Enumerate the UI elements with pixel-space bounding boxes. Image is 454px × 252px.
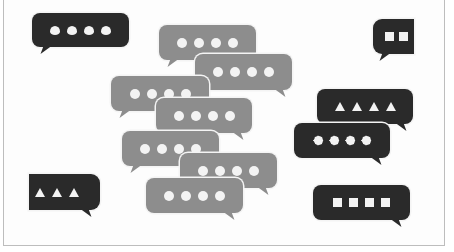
dot-icon <box>191 111 201 121</box>
speech-bubble-dark-triangles4 <box>317 89 413 124</box>
dot-icon <box>198 166 208 176</box>
triangle-icon <box>35 188 45 197</box>
triangle-icon <box>369 102 379 111</box>
dot-icon <box>208 111 218 121</box>
dot-icon <box>147 89 157 99</box>
star-dot-icon <box>362 136 371 145</box>
dot-icon <box>194 38 204 48</box>
dot-icon <box>230 67 240 77</box>
dot-icon <box>181 89 191 99</box>
triangle-icon <box>335 102 345 111</box>
square-icon <box>349 198 358 207</box>
dot-icon <box>232 166 242 176</box>
dot-icon <box>101 26 111 35</box>
triangle-icon <box>69 188 79 197</box>
speech-bubble-dark-triangles3 <box>29 174 100 210</box>
dot-icon <box>211 38 221 48</box>
dot-icon <box>157 144 167 154</box>
dot-icon <box>174 144 184 154</box>
dot-icon <box>164 191 174 201</box>
dot-icon <box>140 144 150 154</box>
square-icon <box>399 32 408 41</box>
dot-icon <box>249 166 259 176</box>
square-icon <box>365 198 374 207</box>
dot-icon <box>191 144 201 154</box>
dot-icon <box>164 89 174 99</box>
dot-icon <box>181 191 191 201</box>
speech-bubble-grey-g <box>146 178 243 213</box>
dot-icon <box>213 67 223 77</box>
speech-bubble-grey-b <box>195 54 292 90</box>
speech-bubble-dark-topleft <box>32 13 129 47</box>
triangle-icon <box>52 188 62 197</box>
dot-icon <box>50 26 60 35</box>
triangle-icon <box>352 102 362 111</box>
dot-icon <box>215 166 225 176</box>
dot-icon <box>198 191 208 201</box>
dot-icon <box>177 38 187 48</box>
speech-bubble-grey-d <box>156 98 252 133</box>
dot-icon <box>247 67 257 77</box>
dot-icon <box>228 38 238 48</box>
dot-icon <box>130 89 140 99</box>
star-dot-icon <box>346 136 355 145</box>
square-icon <box>381 198 390 207</box>
star-dot-icon <box>330 136 339 145</box>
speech-bubble-dark-gears <box>294 123 390 158</box>
dot-icon <box>225 111 235 121</box>
dot-icon <box>264 67 274 77</box>
triangle-icon <box>386 102 396 111</box>
dot-icon <box>84 26 94 35</box>
speech-bubble-dark-topright <box>373 19 414 54</box>
square-icon <box>333 198 342 207</box>
square-icon <box>385 32 394 41</box>
dot-icon <box>215 191 225 201</box>
dot-icon <box>67 26 77 35</box>
star-dot-icon <box>314 136 323 145</box>
dot-icon <box>174 111 184 121</box>
speech-bubble-dark-squares4 <box>313 185 410 220</box>
